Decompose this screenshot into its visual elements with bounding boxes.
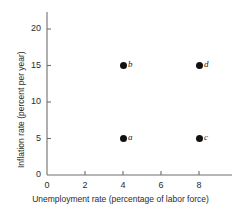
data-point-a — [120, 135, 127, 142]
tick-marks — [47, 29, 199, 175]
data-point-label-a: a — [128, 132, 133, 142]
x-tick-label: 2 — [75, 180, 95, 190]
y-tick-label: 0 — [13, 169, 41, 179]
y-axis-title: Inflation rate (percent per year) — [16, 51, 26, 168]
x-tick-label: 8 — [189, 180, 209, 190]
y-tick-label: 20 — [13, 23, 41, 33]
data-point-b — [120, 62, 127, 69]
data-point-d — [196, 62, 203, 69]
inflation-unemployment-scatter-chart: 05101520 02468 abcd Unemployment rate (p… — [0, 0, 241, 213]
data-point-label-b: b — [128, 59, 133, 69]
x-tick-label: 0 — [37, 180, 57, 190]
x-tick-label: 4 — [113, 180, 133, 190]
plot-area: 05101520 02468 abcd Unemployment rate (p… — [0, 0, 241, 213]
x-tick-label: 6 — [151, 180, 171, 190]
data-point-c — [196, 135, 203, 142]
axis-lines — [47, 12, 232, 175]
x-axis-title: Unemployment rate (percentage of labor f… — [0, 194, 241, 204]
data-point-label-c: c — [204, 132, 208, 142]
data-point-label-d: d — [204, 59, 209, 69]
